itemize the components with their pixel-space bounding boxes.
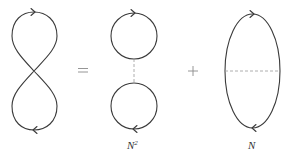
two-circles-diagram: N2 [111, 10, 157, 152]
equals-sign [78, 69, 88, 73]
figure-eight-loop [12, 12, 57, 130]
ellipse-diagram: N [225, 11, 280, 152]
label-n-squared: N2 [126, 139, 138, 151]
top-circle [111, 13, 157, 59]
plus-sign [188, 66, 198, 76]
bottom-circle [111, 83, 157, 129]
figure-eight-diagram [12, 9, 57, 134]
diagram-canvas: N2 N [0, 0, 289, 157]
label-n: N [247, 139, 256, 151]
